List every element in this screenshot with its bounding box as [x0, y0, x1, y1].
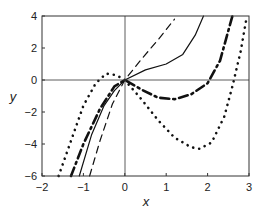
plot-frame [42, 16, 249, 176]
y-tick-label: 0 [31, 74, 37, 86]
y-tick-labels: −6−4−2024 [24, 10, 37, 182]
y-axis-label: y [9, 89, 18, 104]
x-tick-label: 3 [246, 181, 252, 193]
x-tick-label: 0 [122, 181, 128, 193]
y-tick-label: −2 [24, 106, 37, 118]
x-tick-labels: −2−10123 [36, 181, 252, 193]
y-tick-label: −4 [24, 138, 37, 150]
x-tick-label: −1 [77, 181, 90, 193]
x-tick-label: 1 [163, 181, 169, 193]
curve-dash-dot [71, 16, 232, 176]
x-tick-label: 2 [205, 181, 211, 193]
x-axis-label: x [142, 194, 150, 209]
y-tick-label: 2 [31, 42, 37, 54]
line-chart: −2−10123 −6−4−2024 x y [0, 0, 264, 217]
y-tick-label: −6 [24, 170, 37, 182]
y-tick-label: 4 [31, 10, 37, 22]
x-tick-label: −2 [36, 181, 49, 193]
plot-curves [42, 16, 249, 176]
